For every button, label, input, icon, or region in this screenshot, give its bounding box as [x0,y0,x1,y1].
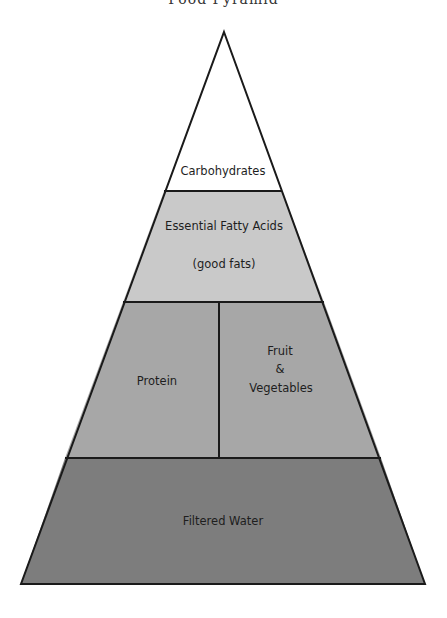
label-good-fats: (good fats) [193,257,256,271]
level-fatty-acids [123,191,324,302]
label-fatty-acids: Essential Fatty Acids [165,219,283,233]
label-fruit: Fruit [267,344,293,358]
label-ampersand: & [276,362,285,376]
level-fruit-vegetables [219,302,381,458]
label-protein: Protein [137,374,177,388]
food-pyramid: Carbohydrates Essential Fatty Acids (goo… [0,0,447,618]
label-vegetables: Vegetables [249,381,313,395]
label-filtered-water: Filtered Water [183,514,264,528]
label-carbohydrates: Carbohydrates [181,164,266,178]
